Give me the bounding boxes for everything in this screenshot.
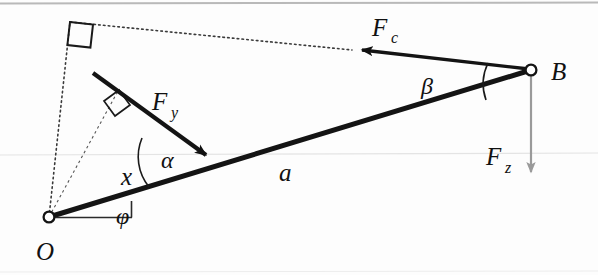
angle-label-beta: β: [420, 73, 433, 99]
point-label-O: O: [36, 238, 54, 265]
force-c-label-base: F: [371, 14, 388, 41]
force-diagram: F c F y F z O B a x α β φ: [0, 0, 598, 275]
angle-label-alpha: α: [161, 147, 174, 173]
point-label-B: B: [551, 58, 566, 85]
length-label-a: a: [279, 159, 292, 186]
angle-label-phi: φ: [116, 203, 129, 229]
length-label-x: x: [120, 163, 132, 190]
force-z-label-base: F: [485, 143, 502, 170]
scan-border-top: [0, 3, 598, 4]
point-marker-B: [526, 65, 537, 76]
diagram-background: [0, 0, 598, 275]
figure-root: F c F y F z O B a x α β φ: [0, 0, 598, 275]
force-c-label-sub: c: [391, 29, 398, 46]
force-y-label-sub: y: [169, 104, 179, 122]
force-z-label-sub: z: [504, 159, 512, 176]
force-y-label-base: F: [151, 88, 168, 115]
point-marker-O: [44, 212, 55, 223]
